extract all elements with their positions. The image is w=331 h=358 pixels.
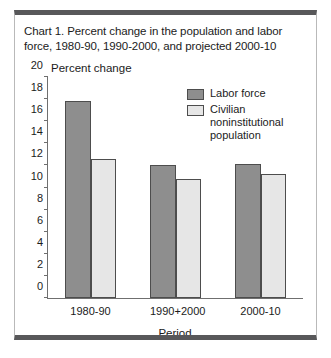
- chart-title: Chart 1. Percent change in the populatio…: [24, 24, 312, 54]
- legend-item: Labor force: [187, 87, 309, 100]
- y-axis-tick-mark: [44, 142, 49, 143]
- x-axis-label: Period: [47, 327, 303, 339]
- y-axis-tick-label: 14: [31, 125, 43, 137]
- y-axis-tick-label: 18: [31, 81, 43, 93]
- bar: [235, 164, 261, 298]
- y-axis-tick-label: 0: [37, 280, 43, 292]
- y-axis-tick-mark: [44, 76, 49, 77]
- bar: [176, 179, 202, 298]
- y-axis-tick-mark: [44, 253, 49, 254]
- y-axis-tick-mark: [44, 120, 49, 121]
- y-axis-tick-mark: [44, 187, 49, 188]
- y-axis-tick-mark: [44, 98, 49, 99]
- y-axis-tick-label: 8: [37, 192, 43, 204]
- x-axis-tick-label: 2000-10: [235, 305, 286, 317]
- y-axis-tick-label: 6: [37, 214, 43, 226]
- y-axis-tick-label: 16: [31, 103, 43, 115]
- bar: [91, 159, 117, 298]
- legend-label: Civilian noninstitutional population: [210, 103, 309, 142]
- bar-group: 1980-90: [65, 77, 116, 298]
- y-axis-tick-label: 2: [37, 258, 43, 270]
- legend-label: Labor force: [210, 87, 266, 100]
- y-axis-tick-label: 4: [37, 236, 43, 248]
- y-axis-tick-label: 20: [31, 59, 43, 71]
- y-axis-tick-mark: [44, 164, 49, 165]
- y-axis-tick-mark: [44, 275, 49, 276]
- y-axis-tick-mark: [44, 231, 49, 232]
- legend-swatch: [187, 105, 204, 116]
- legend-swatch: [187, 89, 204, 100]
- bar: [261, 174, 287, 298]
- y-axis-tick-mark: [44, 209, 49, 210]
- y-axis-label: Percent change: [51, 62, 132, 74]
- chart-figure: Chart 1. Percent change in the populatio…: [14, 10, 317, 340]
- x-axis-tick-label: 1990+2000: [150, 305, 201, 317]
- y-axis-tick-label: 12: [31, 147, 43, 159]
- bar: [150, 165, 176, 298]
- x-axis-tick-label: 1980-90: [65, 305, 116, 317]
- y-axis-tick-label: 10: [31, 170, 43, 182]
- y-axis-tick-mark: [44, 297, 49, 298]
- chart-legend: Labor forceCivilian noninstitutional pop…: [187, 87, 309, 145]
- bar: [65, 101, 91, 298]
- legend-item: Civilian noninstitutional population: [187, 103, 309, 142]
